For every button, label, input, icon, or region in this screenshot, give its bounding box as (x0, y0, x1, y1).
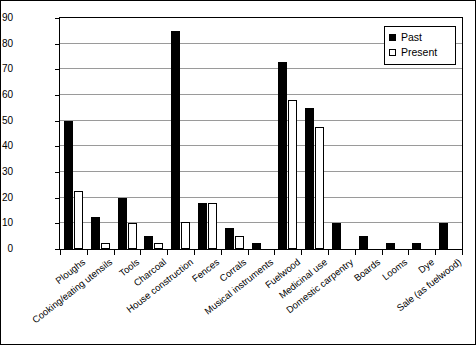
x-axis-category-label: Dye (416, 257, 435, 275)
bar-past (359, 236, 368, 249)
bar-past (332, 223, 341, 249)
bar-present (288, 100, 297, 249)
y-axis-tick-label: 10 (0, 218, 13, 228)
bar-past (91, 217, 100, 249)
x-axis-category-label: Fences (191, 257, 221, 284)
gridline (60, 171, 462, 172)
legend-swatch-present-icon (389, 49, 396, 56)
x-axis-category-label: Looms (381, 257, 409, 282)
chart-legend: Past Present (384, 26, 456, 65)
legend-swatch-past-icon (389, 34, 396, 41)
bar-past (439, 223, 448, 249)
bar-past (144, 236, 153, 249)
bar-past (386, 243, 395, 249)
bar-past (252, 243, 261, 249)
bar-past (64, 121, 73, 249)
y-axis-tick-label: 30 (0, 167, 13, 177)
bar-past (118, 198, 127, 249)
legend-label-past: Past (401, 32, 422, 43)
bar-present (74, 191, 83, 249)
x-axis-category-labels: PloughsCooking/eating utensilsToolsCharc… (1, 253, 476, 345)
gridline (60, 120, 462, 121)
y-axis-tick-label: 60 (0, 90, 13, 100)
y-axis-tick-label: 90 (0, 13, 13, 23)
legend-label-present: Present (401, 47, 437, 58)
y-axis-tick-label: 20 (0, 193, 13, 203)
chart-figure: Reported percentage who use 010203040506… (0, 0, 476, 345)
gridline (60, 94, 462, 95)
gridline (60, 68, 462, 69)
bar-present (315, 127, 324, 249)
legend-item-past: Past (389, 30, 451, 45)
y-axis-tick-label: 70 (0, 64, 13, 74)
x-axis-category-label: Boards (352, 257, 382, 283)
bar-present (181, 222, 190, 249)
bar-present (128, 223, 137, 249)
bar-past (278, 62, 287, 249)
bar-present (154, 243, 163, 249)
legend-item-present: Present (389, 45, 451, 60)
bar-present (208, 203, 217, 249)
y-axis-tick-label: 40 (0, 141, 13, 151)
bar-present (101, 243, 110, 249)
bar-past (225, 228, 234, 249)
y-axis-tick-label: 50 (0, 116, 13, 126)
y-axis-tick-label: 80 (0, 39, 13, 49)
bar-past (412, 243, 421, 249)
gridline (60, 145, 462, 146)
bar-present (235, 236, 244, 249)
bar-past (305, 108, 314, 249)
bar-past (198, 203, 207, 249)
bar-past (171, 31, 180, 249)
